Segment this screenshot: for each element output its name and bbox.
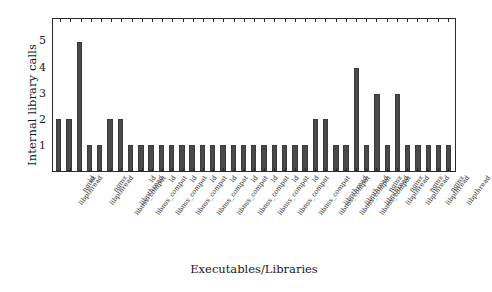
x-axis-tick: [366, 168, 367, 172]
bar: [118, 119, 123, 171]
x-axis-tick: [101, 168, 102, 172]
x-axis-tick: [448, 168, 449, 172]
x-axis-tick: [213, 18, 214, 22]
bar-series: [53, 19, 455, 171]
x-axis-tick: [417, 168, 418, 172]
x-axis-tick: [223, 18, 224, 22]
x-axis-tick: [325, 18, 326, 22]
x-axis-tick: [162, 18, 163, 22]
x-axis-tick: [427, 168, 428, 172]
bar: [395, 94, 400, 171]
y-axis-tick-label: 3: [12, 88, 46, 99]
x-axis-tick: [397, 168, 398, 172]
x-axis-tick: [356, 18, 357, 22]
bar: [77, 42, 82, 171]
x-axis-tick: [172, 168, 173, 172]
x-axis-tick: [244, 18, 245, 22]
x-axis-tick: [438, 18, 439, 22]
x-axis-tick: [346, 18, 347, 22]
x-axis-tick: [407, 18, 408, 22]
x-axis-tick: [295, 18, 296, 22]
x-axis-tick: [70, 18, 71, 22]
x-axis-tick: [417, 18, 418, 22]
x-axis-tick: [325, 168, 326, 172]
y-axis-tick-label: 1: [12, 140, 46, 151]
x-axis-tick: [152, 168, 153, 172]
x-axis-tick: [60, 18, 61, 22]
x-axis-tick: [274, 18, 275, 22]
x-axis-tick: [152, 18, 153, 22]
x-axis-tick: [407, 168, 408, 172]
x-axis-tick: [376, 168, 377, 172]
x-axis-tick: [427, 18, 428, 22]
x-axis-tick: [305, 168, 306, 172]
x-axis-tick: [81, 18, 82, 22]
x-axis-tick: [387, 168, 388, 172]
x-axis-tick: [183, 18, 184, 22]
bar: [107, 119, 112, 171]
x-axis-tick: [213, 168, 214, 172]
x-axis-tick: [142, 168, 143, 172]
x-axis-tick: [203, 168, 204, 172]
x-axis-tick: [356, 168, 357, 172]
x-axis-tick: [285, 168, 286, 172]
x-axis-tick: [183, 168, 184, 172]
x-axis-tick: [132, 168, 133, 172]
x-axis-tick: [397, 18, 398, 22]
plot-area: [52, 18, 456, 172]
x-axis-tick: [162, 168, 163, 172]
x-axis-tick: [346, 168, 347, 172]
x-axis-tick: [121, 168, 122, 172]
x-axis-tick: [274, 168, 275, 172]
x-axis-tick: [234, 168, 235, 172]
x-axis-tick: [387, 18, 388, 22]
x-axis-tick: [295, 168, 296, 172]
bar: [354, 68, 359, 171]
x-axis-tick: [438, 168, 439, 172]
bar: [323, 119, 328, 171]
x-axis-tick: [101, 18, 102, 22]
x-axis-tick: [172, 18, 173, 22]
x-axis-tick: [70, 168, 71, 172]
x-axis-tick: [448, 18, 449, 22]
x-axis-tick: [193, 168, 194, 172]
x-axis-tick: [376, 18, 377, 22]
x-axis-tick: [203, 18, 204, 22]
x-axis-tick: [315, 168, 316, 172]
x-axis-tick: [142, 18, 143, 22]
x-axis-tick: [366, 18, 367, 22]
bar: [66, 119, 71, 171]
x-axis-tick: [244, 168, 245, 172]
x-axis-title: Executables/Libraries: [52, 262, 456, 276]
y-axis-tick-label: 5: [12, 35, 46, 46]
x-axis-tick: [336, 18, 337, 22]
x-axis-tick: [336, 168, 337, 172]
x-axis-tick: [315, 18, 316, 22]
x-axis-tick: [193, 18, 194, 22]
x-axis-tick-labels: libpthreadnginxldlibpthreadnginxlibnss_c…: [52, 174, 456, 252]
bar: [56, 119, 61, 171]
x-axis-tick: [132, 18, 133, 22]
bar: [313, 119, 318, 171]
x-axis-tick: [91, 168, 92, 172]
x-axis-tick: [264, 168, 265, 172]
x-axis-tick: [60, 168, 61, 172]
x-axis-tick: [254, 18, 255, 22]
x-axis-tick: [285, 18, 286, 22]
x-axis-tick: [111, 168, 112, 172]
y-axis-tick-label: 4: [12, 62, 46, 73]
x-axis-tick: [111, 18, 112, 22]
y-axis-tick-label: 2: [12, 114, 46, 125]
x-axis-tick: [223, 168, 224, 172]
x-axis-tick: [121, 18, 122, 22]
x-axis-tick: [91, 18, 92, 22]
x-axis-tick: [264, 18, 265, 22]
x-axis-tick: [305, 18, 306, 22]
bar: [374, 94, 379, 171]
x-axis-tick: [81, 168, 82, 172]
x-axis-tick: [254, 168, 255, 172]
x-axis-tick: [234, 18, 235, 22]
